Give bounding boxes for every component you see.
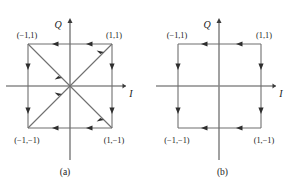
panel-a: Q I (−1,1) (1,1) (−1,−1) (1,−1) (a) xyxy=(0,0,148,183)
arrow-top-right-seg xyxy=(236,41,243,46)
figure-container: Q I (−1,1) (1,1) (−1,−1) (1,−1) (a) xyxy=(0,0,297,183)
arrow-left-upper xyxy=(25,64,30,71)
panel-b: Q I (−1,1) (1,1) (−1,−1) (1,−1) (b) xyxy=(148,0,297,183)
constellation-diagram-a: Q I (−1,1) (1,1) (−1,−1) (1,−1) xyxy=(0,0,148,183)
arrow-top-left-seg xyxy=(201,41,208,46)
i-axis-label: I xyxy=(128,88,133,99)
point-label-top-right: (1,1) xyxy=(106,31,122,40)
point-label-bottom-left: (−1,−1) xyxy=(164,136,189,145)
panel-a-caption: (a) xyxy=(0,167,148,177)
arrow-top-left-seg xyxy=(52,41,59,46)
q-axis-label: Q xyxy=(54,19,62,30)
arrow-left-upper xyxy=(175,64,180,71)
arrow-left-lower xyxy=(25,108,30,115)
q-axis-arrowhead xyxy=(217,18,222,23)
i-axis-arrowhead xyxy=(273,84,277,89)
point-label-top-left: (−1,1) xyxy=(17,31,38,40)
panel-b-caption: (b) xyxy=(148,167,297,177)
arrow-top-right-seg xyxy=(86,41,93,46)
arrow-bottom-right-seg xyxy=(236,125,243,130)
arrow-right-upper xyxy=(258,64,263,71)
arrow-bottom-right-seg xyxy=(86,125,93,130)
i-axis-arrowhead xyxy=(123,84,127,89)
constellation-diagram-b: Q I (−1,1) (1,1) (−1,−1) (1,−1) xyxy=(148,0,297,183)
q-axis-label: Q xyxy=(203,19,211,30)
arrow-right-upper xyxy=(109,64,114,71)
point-label-bottom-right: (1,−1) xyxy=(104,136,125,145)
point-label-bottom-right: (1,−1) xyxy=(254,136,275,145)
arrow-left-lower xyxy=(175,108,180,115)
arrow-bottom-left-seg xyxy=(52,125,59,130)
arrow-right-lower xyxy=(109,108,114,115)
i-axis-label: I xyxy=(278,88,283,99)
arrow-right-lower xyxy=(258,108,263,115)
arrow-bottom-left-seg xyxy=(201,125,208,130)
q-axis-arrowhead xyxy=(68,18,73,23)
point-label-bottom-left: (−1,−1) xyxy=(14,136,39,145)
point-label-top-right: (1,1) xyxy=(256,31,272,40)
point-label-top-left: (−1,1) xyxy=(167,31,188,40)
